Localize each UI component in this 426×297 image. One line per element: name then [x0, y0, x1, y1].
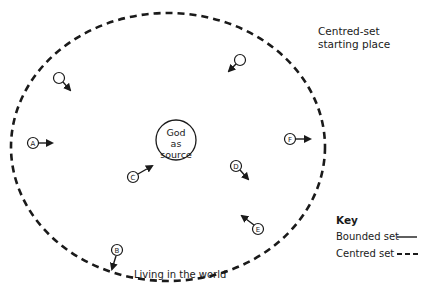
node-f: F [285, 134, 311, 145]
corner-label-line-1: Centred-set [318, 25, 390, 38]
svg-text:B: B [115, 247, 120, 255]
svg-text:D: D [233, 163, 238, 171]
god-label-line-2: as [156, 138, 196, 149]
node-c: C [128, 166, 153, 183]
corner-label-line-2: starting place [318, 38, 390, 51]
svg-text:E: E [256, 226, 260, 234]
key-title: Key [336, 214, 358, 226]
god-label-line-3: source [156, 149, 196, 160]
node-a: A [28, 138, 53, 149]
corner-label: Centred-set starting place [318, 25, 390, 51]
node-d: D [231, 161, 249, 180]
key-item-bounded: Bounded set [336, 231, 399, 243]
svg-text:C: C [131, 174, 136, 182]
svg-text:F: F [288, 136, 292, 144]
key-item-centred: Centred set [336, 248, 394, 260]
living-in-world-label: Living in the world [134, 269, 226, 281]
god-label-line-1: God [156, 127, 196, 138]
god-as-source-label: God as source [156, 127, 196, 160]
svg-text:A: A [31, 140, 36, 148]
node-b: B [112, 245, 123, 270]
node-unlabeled-1 [54, 73, 71, 91]
node-unlabeled-2 [229, 55, 246, 72]
node-e: E [242, 216, 264, 235]
